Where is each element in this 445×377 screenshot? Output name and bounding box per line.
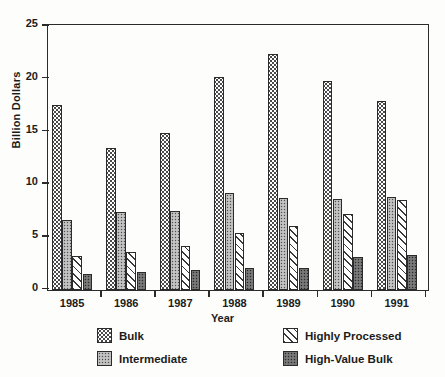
bar-highly-processed-1990 [343, 214, 353, 290]
x-axis-tick-mark [100, 290, 102, 297]
bar-intermediate-1985 [62, 220, 72, 290]
x-axis-tick-mark [208, 290, 210, 297]
legend-item-bulk: Bulk [97, 328, 144, 343]
bar-highly-processed-1988 [235, 233, 245, 290]
bar-highly-processed-1985 [72, 256, 82, 290]
bar-intermediate-1989 [279, 198, 289, 290]
x-axis-tick-mark [425, 290, 427, 297]
bar-intermediate-1987 [170, 211, 180, 290]
bar-chart: Billion Dollars 051015202519851986198719… [0, 0, 445, 377]
legend-label-highly-processed: Highly Processed [305, 330, 402, 342]
bar-intermediate-1991 [387, 197, 397, 290]
y-tick-mark [42, 130, 49, 132]
legend-item-highly-processed: Highly Processed [283, 328, 402, 343]
bar-bulk-1991 [377, 101, 387, 290]
bar-bulk-1986 [106, 148, 116, 290]
y-tick-label: 15 [14, 123, 38, 135]
x-axis-tick-mark [317, 290, 319, 297]
legend-item-high-value-bulk: High-Value Bulk [283, 351, 393, 366]
bar-bulk-1988 [214, 77, 224, 290]
x-axis-tick-mark [154, 290, 156, 297]
y-tick-label: 5 [14, 228, 38, 240]
bar-highly-processed-1986 [126, 252, 136, 290]
x-tick-label-1987: 1987 [150, 297, 210, 309]
y-tick-label: 25 [14, 17, 38, 29]
bar-highly-processed-1987 [181, 246, 191, 290]
bar-bulk-1989 [268, 54, 278, 290]
chart-legend: Bulk Intermediate Highly Processed High-… [0, 325, 445, 377]
y-tick-mark [42, 77, 49, 79]
bar-intermediate-1986 [116, 212, 126, 290]
legend-swatch-intermediate-icon [97, 351, 112, 366]
legend-label-high-value-bulk: High-Value Bulk [305, 353, 393, 365]
x-axis-title: Year [0, 312, 445, 324]
bar-high-value-bulk-1991 [407, 255, 417, 290]
y-tick-mark [42, 24, 49, 26]
bar-bulk-1985 [52, 105, 62, 290]
x-axis-tick-mark [371, 290, 373, 297]
x-tick-label-1988: 1988 [204, 297, 264, 309]
bar-intermediate-1988 [225, 193, 235, 290]
legend-label-intermediate: Intermediate [119, 353, 187, 365]
bar-highly-processed-1989 [289, 226, 299, 290]
bar-high-value-bulk-1990 [353, 257, 363, 290]
bar-high-value-bulk-1985 [83, 274, 93, 290]
x-tick-label-1991: 1991 [367, 297, 427, 309]
legend-swatch-highly-processed-icon [283, 328, 298, 343]
plot-inner: 05101520251985198619871988198919901991 [48, 25, 428, 290]
x-axis-tick-mark [262, 290, 264, 297]
x-tick-label-1986: 1986 [96, 297, 156, 309]
y-tick-label: 0 [14, 281, 38, 293]
bar-high-value-bulk-1988 [245, 268, 255, 290]
bar-bulk-1987 [160, 133, 170, 290]
bar-high-value-bulk-1989 [299, 268, 309, 290]
legend-item-intermediate: Intermediate [97, 351, 187, 366]
bar-high-value-bulk-1987 [191, 270, 201, 290]
bar-bulk-1990 [323, 81, 333, 290]
plot-area: 05101520251985198619871988198919901991 [47, 24, 429, 291]
bar-highly-processed-1991 [397, 200, 407, 290]
y-tick-mark [42, 235, 49, 237]
y-axis-title: Billion Dollars [10, 50, 22, 170]
y-tick-mark [42, 288, 49, 290]
legend-swatch-bulk-icon [97, 328, 112, 343]
bar-high-value-bulk-1986 [137, 272, 147, 290]
x-tick-label-1985: 1985 [42, 297, 102, 309]
y-tick-label: 20 [14, 70, 38, 82]
y-tick-label: 10 [14, 175, 38, 187]
bar-intermediate-1990 [333, 199, 343, 290]
y-tick-mark [42, 182, 49, 184]
legend-label-bulk: Bulk [119, 330, 144, 342]
x-tick-label-1990: 1990 [313, 297, 373, 309]
legend-swatch-high-value-bulk-icon [283, 351, 298, 366]
x-tick-label-1989: 1989 [259, 297, 319, 309]
